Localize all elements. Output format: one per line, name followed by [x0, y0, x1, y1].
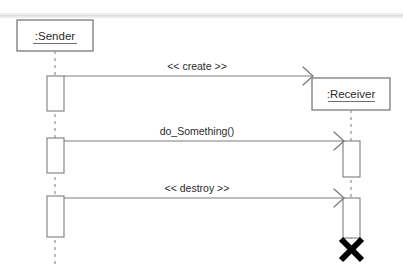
message-destroy[interactable]: << destroy >> — [64, 182, 344, 207]
receiver-label: :Receiver — [327, 88, 376, 100]
scan-artifact-line — [0, 15, 403, 16]
diagram-canvas: :Sender :Receiver << create >> — [0, 0, 403, 280]
activation-bar-sender-2[interactable] — [47, 138, 64, 173]
activation-bar-sender-3[interactable] — [47, 196, 64, 237]
message-create-label: << create >> — [167, 60, 227, 72]
destroy-marker-icon — [341, 239, 362, 260]
message-destroy-label: << destroy >> — [165, 182, 230, 194]
message-do-something[interactable]: do_Something() — [64, 125, 344, 150]
activation-bar-receiver-1[interactable] — [343, 141, 360, 177]
uml-sequence-diagram: :Sender :Receiver << create >> — [0, 0, 403, 280]
message-do-something-label: do_Something() — [160, 125, 235, 137]
message-create[interactable]: << create >> — [64, 60, 313, 85]
sender-label: :Sender — [35, 30, 75, 42]
activation-bar-sender-1[interactable] — [47, 76, 64, 111]
activation-bar-receiver-2[interactable] — [343, 198, 360, 238]
